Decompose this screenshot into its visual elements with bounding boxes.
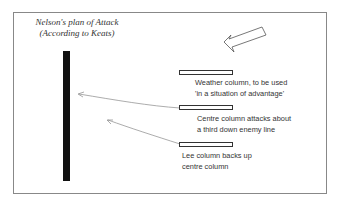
weather-column-marker <box>179 70 233 75</box>
arrows-layer <box>0 0 343 205</box>
lee-label-line-2: centre column <box>182 161 252 172</box>
weather-label-line-1: Weather column, to be used <box>195 77 287 88</box>
lee-column-marker <box>179 142 233 147</box>
weather-label-line-2: 'in a situation of advantage' <box>195 88 287 99</box>
centre-attack-arrow-icon <box>78 92 180 108</box>
weather-column-label: Weather column, to be used 'in a situati… <box>195 77 287 99</box>
lee-label-line-1: Lee column backs up <box>182 150 252 161</box>
centre-label-line-2: a third down enemy line <box>197 124 291 135</box>
centre-label-line-1: Centre column attacks about <box>197 113 291 124</box>
centre-column-label: Centre column attacks about a third down… <box>197 113 291 135</box>
centre-column-marker <box>179 105 233 110</box>
lee-column-label: Lee column backs up centre column <box>182 150 252 172</box>
lee-attack-arrow-icon <box>107 120 180 144</box>
wind-direction-arrow-icon <box>224 27 266 52</box>
